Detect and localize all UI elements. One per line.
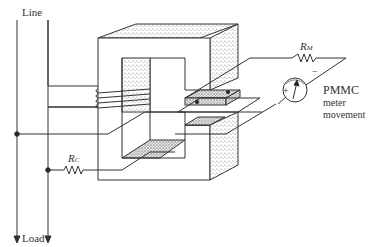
load-arrow-right: [45, 236, 51, 243]
resistor-rc: [64, 166, 83, 174]
rc-label: RC: [68, 152, 79, 166]
meter-plus-label: +: [283, 85, 289, 97]
core-front-face: [98, 38, 210, 180]
meter-minus-label: −: [312, 66, 318, 78]
load-label: Load: [22, 232, 45, 244]
movement-label: movement: [323, 109, 365, 121]
line-label: Line: [22, 6, 42, 18]
rm-label: RM: [300, 40, 313, 54]
meter-label: meter: [323, 97, 346, 109]
pmmc-label: PMMC: [323, 84, 359, 96]
circuit-drawing: [0, 0, 383, 247]
diagram-canvas: Line Load RC RM + − PMMC meter movement: [0, 0, 383, 247]
load-arrow-left: [14, 236, 20, 243]
resistor-rm: [292, 54, 316, 62]
